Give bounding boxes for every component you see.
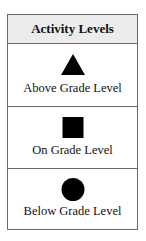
activity-levels-legend-table: Activity Levels Above Grade Level On Gra… <box>7 14 138 230</box>
square-icon <box>62 117 83 138</box>
circle-icon <box>61 178 84 201</box>
legend-row-above-grade: Above Grade Level <box>8 44 137 107</box>
legend-label: On Grade Level <box>8 143 137 158</box>
legend-label: Below Grade Level <box>8 204 137 219</box>
legend-row-below-grade: Below Grade Level <box>8 169 137 229</box>
legend-row-on-grade: On Grade Level <box>8 107 137 169</box>
legend-label: Above Grade Level <box>8 81 137 96</box>
legend-title: Activity Levels <box>8 15 137 44</box>
triangle-icon <box>61 54 85 75</box>
